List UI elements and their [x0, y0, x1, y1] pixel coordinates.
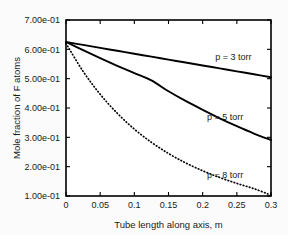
x-tick-label: 0.2	[196, 200, 209, 210]
x-tick-label: 0.1	[128, 200, 141, 210]
y-axis-title: Mole fraction of F atoms	[11, 57, 22, 159]
x-axis-tick-labels: 00.050.10.150.20.250.3	[63, 200, 277, 210]
y-tick-label: 4.00e-01	[24, 103, 60, 113]
y-tick-label: 5.00e-01	[24, 74, 60, 84]
x-axis-title: Tube length along axis, m	[114, 219, 223, 230]
x-tick-label: 0.25	[228, 200, 246, 210]
x-tick-label: 0	[63, 200, 68, 210]
y-tick-label: 7.00e-01	[24, 15, 60, 25]
y-tick-label: 1.00e-01	[24, 191, 60, 201]
series-annotation: p = 3 torr	[215, 52, 251, 62]
x-tick-label: 0.05	[91, 200, 109, 210]
y-tick-label: 3.00e-01	[24, 133, 60, 143]
x-tick-label: 0.3	[265, 200, 278, 210]
x-tick-label: 0.15	[160, 200, 178, 210]
chart-figure: 1.00e-012.00e-013.00e-014.00e-015.00e-01…	[0, 0, 288, 235]
y-tick-label: 2.00e-01	[24, 162, 60, 172]
y-tick-label: 6.00e-01	[24, 45, 60, 55]
series-annotation: p = 5 torr	[207, 112, 243, 122]
series-annotation: p = 8 torr	[207, 170, 243, 180]
line-chart: 1.00e-012.00e-013.00e-014.00e-015.00e-01…	[0, 0, 288, 235]
